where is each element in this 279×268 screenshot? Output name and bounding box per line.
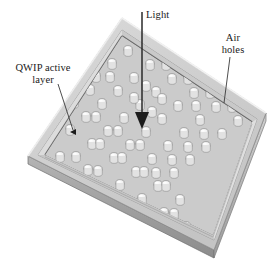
air-hole xyxy=(180,128,188,139)
light-label: Light xyxy=(146,9,169,21)
air-hole xyxy=(162,181,170,192)
air-hole xyxy=(136,140,144,151)
air-hole xyxy=(108,59,117,70)
air-hole xyxy=(186,155,194,166)
air-hole xyxy=(96,139,105,150)
air-hole xyxy=(114,86,123,97)
qwip-active-layer-label: QWIP activelayer xyxy=(8,62,78,85)
air-hole xyxy=(196,115,204,126)
air-hole xyxy=(110,153,119,164)
air-hole xyxy=(124,46,133,57)
air-hole xyxy=(132,167,140,178)
air-hole xyxy=(142,127,150,138)
air-hole xyxy=(168,155,176,166)
air-hole xyxy=(114,126,123,137)
air-hole xyxy=(88,139,97,150)
air-hole xyxy=(170,168,178,179)
air-hole xyxy=(140,167,148,178)
air-hole xyxy=(142,81,150,92)
air-hole xyxy=(190,88,198,99)
air-hole xyxy=(92,112,101,123)
air-hole xyxy=(174,101,182,112)
air-hole xyxy=(168,74,176,85)
air-hole xyxy=(98,99,107,110)
air-hole xyxy=(126,140,135,151)
air-hole xyxy=(66,125,75,136)
air-hole xyxy=(94,166,103,177)
qwip-label-line1: QWIP active xyxy=(15,62,70,73)
air-hole xyxy=(164,141,172,152)
air-holes-label-line2: holes xyxy=(222,44,245,55)
air-hole xyxy=(192,101,200,112)
air-hole xyxy=(130,73,138,84)
air-hole xyxy=(82,112,91,123)
air-hole xyxy=(234,116,242,127)
air-holes-label: Airholes xyxy=(205,32,261,55)
air-hole xyxy=(158,94,166,105)
air-hole xyxy=(158,114,166,125)
air-hole xyxy=(202,142,210,153)
air-hole xyxy=(148,107,156,118)
air-hole xyxy=(154,181,162,192)
qwip-label-line2: layer xyxy=(32,74,54,85)
air-hole xyxy=(106,72,115,83)
air-hole xyxy=(184,142,192,153)
air-hole xyxy=(212,102,220,113)
air-hole xyxy=(146,60,154,71)
air-hole xyxy=(72,152,81,163)
qwip-figure: Light Airholes QWIP activelayer xyxy=(0,0,279,268)
air-hole xyxy=(200,129,208,140)
air-hole xyxy=(218,129,226,140)
air-hole xyxy=(128,221,137,232)
air-hole xyxy=(118,153,127,164)
air-hole xyxy=(130,93,138,104)
air-hole xyxy=(106,207,115,218)
air-hole xyxy=(176,195,184,206)
air-hole xyxy=(120,113,129,124)
air-hole xyxy=(104,126,113,137)
air-holes-label-line1: Air xyxy=(226,32,240,43)
air-hole xyxy=(152,168,160,179)
air-hole xyxy=(84,165,93,176)
air-hole xyxy=(148,154,156,165)
air-hole xyxy=(116,180,125,191)
